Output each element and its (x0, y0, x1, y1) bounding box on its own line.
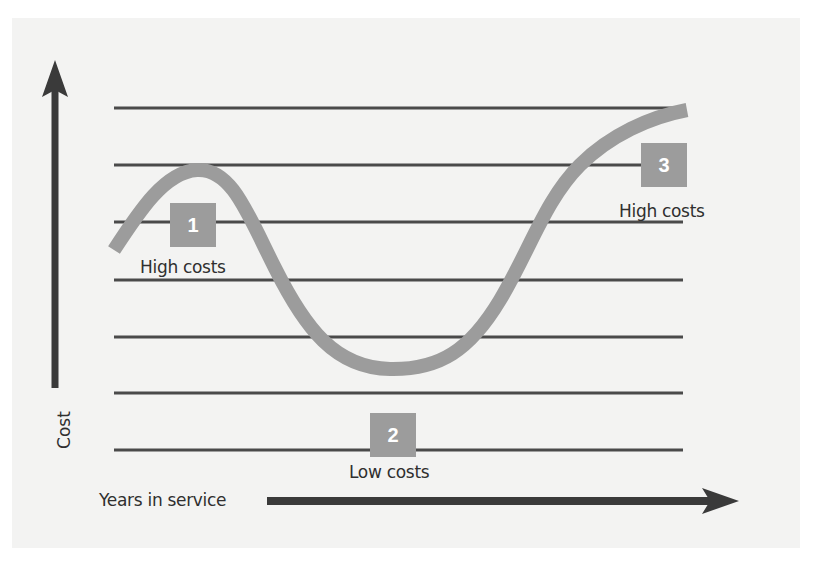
y-axis-arrow (42, 60, 68, 388)
phase-2-label: Low costs (349, 462, 429, 482)
y-axis-label: Cost (54, 410, 74, 450)
gridlines (114, 108, 683, 450)
phase-1-label: High costs (140, 257, 226, 277)
x-axis-label: Years in service (99, 490, 226, 510)
phase-1-badge: 1 (170, 203, 216, 247)
phase-3-label: High costs (619, 201, 705, 221)
x-axis-arrow (267, 488, 739, 514)
phase-3-badge: 3 (641, 143, 687, 187)
phase-2-badge: 2 (370, 413, 416, 457)
